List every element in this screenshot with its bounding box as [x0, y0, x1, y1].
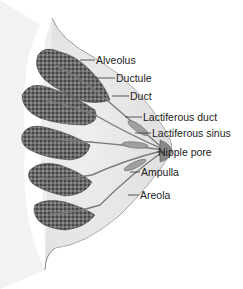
label-ampulla: Ampulla: [141, 166, 179, 178]
label-duct: Duct: [130, 90, 152, 102]
label-lactiferous-duct: Lactiferous duct: [143, 111, 217, 123]
breast-anatomy-diagram: Alveolus Ductule Duct Lactiferous duct L…: [0, 0, 243, 289]
breast-illustration: [0, 0, 243, 289]
label-areola: Areola: [140, 189, 170, 201]
label-ductule: Ductule: [116, 72, 152, 84]
label-lactiferous-sinus: Lactiferous sinus: [152, 127, 231, 139]
label-alveolus: Alveolus: [96, 54, 136, 66]
label-nipple-pore: Nipple pore: [158, 146, 212, 158]
